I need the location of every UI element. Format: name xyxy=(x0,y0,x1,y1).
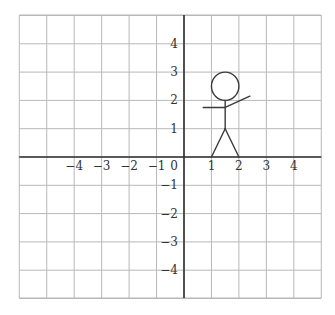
x-tick-label: −3 xyxy=(93,159,111,173)
x-tick-label: 3 xyxy=(263,159,271,173)
x-axis-tick-labels: −4−3−2−101234 xyxy=(65,159,298,173)
x-tick-label: −2 xyxy=(120,159,138,173)
x-tick-label: −1 xyxy=(148,159,166,173)
x-tick-label: 2 xyxy=(235,159,243,173)
stick-figure-right-arm xyxy=(225,96,250,107)
stick-figure-head xyxy=(211,72,238,100)
coordinate-plane: −4−3−2−101234 4321−1−2−3−4 xyxy=(0,0,335,315)
y-tick-label: −2 xyxy=(160,207,178,221)
x-tick-label: 1 xyxy=(208,159,216,173)
stick-figure xyxy=(203,72,250,157)
x-tick-label: 0 xyxy=(170,159,178,173)
x-tick-label: −4 xyxy=(65,159,83,173)
y-tick-label: −1 xyxy=(160,178,178,192)
y-tick-label: 4 xyxy=(170,37,178,51)
coordinate-plane-diagram: −4−3−2−101234 4321−1−2−3−4 xyxy=(0,0,335,315)
y-tick-label: 1 xyxy=(170,122,178,136)
axes xyxy=(19,15,321,298)
y-tick-label: −3 xyxy=(160,235,178,249)
y-tick-label: 2 xyxy=(170,93,178,107)
y-tick-label: −4 xyxy=(160,263,178,277)
stick-figure-left-leg xyxy=(211,129,225,157)
x-tick-label: 4 xyxy=(290,159,298,173)
stick-figure-right-leg xyxy=(225,129,239,157)
y-tick-label: 3 xyxy=(170,65,178,79)
